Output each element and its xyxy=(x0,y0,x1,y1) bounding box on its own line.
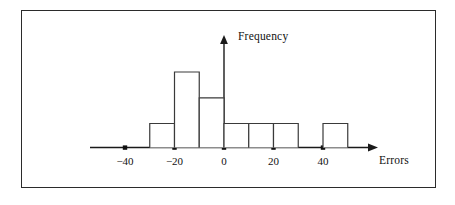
histogram-figure: Frequency Errors −40 −20 0 20 40 xyxy=(0,0,455,205)
bar-bin--10-0 xyxy=(199,98,224,148)
y-axis-arrowhead xyxy=(220,35,228,44)
bar-bin--30--20 xyxy=(150,124,175,148)
bar-bin-40-50 xyxy=(323,124,348,148)
x-tick-label-0: 0 xyxy=(221,155,227,167)
x-tick--40 xyxy=(123,145,127,149)
bar-bin-10-20 xyxy=(249,124,274,148)
x-axis-arrowhead xyxy=(368,144,378,152)
x-tick-label--40: −40 xyxy=(116,155,133,167)
histogram-plot xyxy=(0,0,455,205)
bar-bin-0-10 xyxy=(224,124,249,148)
x-axis-title: Errors xyxy=(379,154,409,166)
x-tick-label-40: 40 xyxy=(318,155,329,167)
y-axis-title: Frequency xyxy=(238,30,288,42)
x-tick-label--20: −20 xyxy=(166,155,183,167)
x-tick-label-20: 20 xyxy=(268,155,279,167)
bar-bin-20-30 xyxy=(274,124,299,148)
bar-bin--20--10 xyxy=(175,72,200,148)
